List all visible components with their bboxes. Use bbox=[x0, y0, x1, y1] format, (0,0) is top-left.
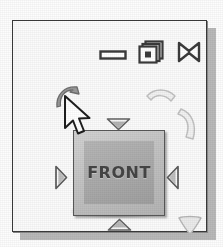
curved-arrow-icon bbox=[176, 214, 204, 236]
restore-button[interactable] bbox=[137, 39, 165, 65]
view-cube-face-label: FRONT bbox=[84, 163, 154, 182]
close-icon bbox=[176, 40, 202, 64]
rotate-up-button[interactable] bbox=[106, 117, 131, 131]
view-cube-inner-face: FRONT bbox=[84, 141, 154, 204]
mouse-pointer-icon bbox=[62, 94, 98, 142]
view-orientation-panel: FRONT bbox=[12, 20, 207, 232]
mouse-pointer-icon bbox=[62, 94, 98, 142]
triangle-left-icon bbox=[166, 165, 180, 190]
close-button[interactable] bbox=[176, 40, 202, 64]
rotate-right-button[interactable] bbox=[166, 165, 180, 190]
minimize-icon bbox=[99, 47, 127, 63]
triangle-up-icon bbox=[107, 218, 132, 232]
rotate-down-button[interactable] bbox=[107, 218, 132, 232]
rotate-left-button[interactable] bbox=[54, 165, 68, 190]
restore-icon bbox=[137, 39, 165, 65]
roll-button-bottom-right[interactable] bbox=[176, 214, 204, 236]
triangle-down-icon bbox=[106, 117, 131, 131]
curved-arrow-icon bbox=[173, 107, 203, 143]
screenshot-canvas: FRONT bbox=[0, 0, 223, 247]
roll-clockwise-button-lower[interactable] bbox=[173, 107, 203, 143]
view-cube-front-face[interactable]: FRONT bbox=[73, 130, 165, 216]
minimize-button[interactable] bbox=[99, 47, 127, 63]
triangle-right-icon bbox=[54, 165, 68, 190]
